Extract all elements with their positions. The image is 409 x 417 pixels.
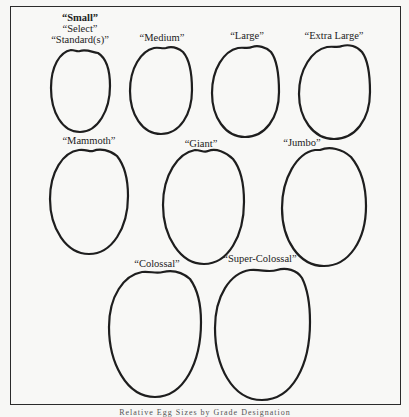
label-super-colossal: “Super-Colossal” — [223, 253, 296, 264]
label-medium: “Medium” — [140, 32, 185, 43]
egg-mammoth — [50, 150, 128, 254]
egg-giant — [163, 150, 244, 264]
egg-super-colossal — [215, 269, 310, 400]
figure-caption: Relative Egg Sizes by Grade Designation — [119, 408, 291, 417]
label-small: “Small” — [62, 12, 98, 23]
egg-jumbo — [282, 148, 366, 266]
label-colossal: “Colossal” — [134, 258, 180, 269]
egg-colossal — [109, 271, 201, 397]
egg-medium — [130, 47, 192, 134]
label-select: “Select” — [63, 23, 98, 34]
label-jumbo: “Jumbo” — [283, 137, 320, 148]
egg-extra-large — [299, 45, 370, 139]
egg-small — [51, 50, 110, 132]
label-large: “Large” — [230, 30, 264, 41]
label-extra-large: “Extra Large” — [305, 30, 364, 41]
label-giant: “Giant” — [185, 138, 218, 149]
label-mammoth: “Mammoth” — [62, 135, 115, 146]
label-standard: “Standard(s)” — [51, 34, 109, 45]
egg-large — [212, 46, 279, 137]
